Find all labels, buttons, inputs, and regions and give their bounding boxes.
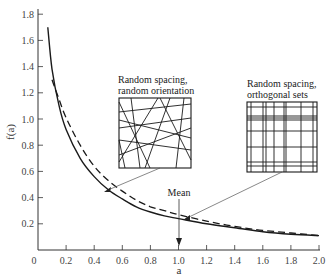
y-tick-label: 0.4: [22, 192, 35, 203]
inset-left-pointer: [108, 168, 160, 190]
y-tick-label: 0.6: [22, 166, 35, 177]
x-tick-label: 0.8: [144, 255, 157, 266]
x-tick-label: 0.2: [60, 255, 73, 266]
inset-right-pointer: [187, 172, 282, 218]
x-tick-label: 1.6: [257, 255, 270, 266]
x-tick-label: 1.4: [228, 255, 241, 266]
y-tick-label: 1.6: [22, 35, 35, 46]
x-tick-label: 1.8: [285, 255, 298, 266]
inset-right-title-2: orthogonal sets: [247, 89, 308, 100]
x-tick-label: 0.4: [88, 255, 101, 266]
mean-arrow-head-icon: [176, 238, 182, 246]
y-tick-label: 1.4: [22, 61, 35, 72]
chart: 0.20.40.60.81.01.21.41.61.8 00.20.40.60.…: [0, 0, 333, 279]
inset-random-orientation: [119, 98, 191, 168]
x-ticks: 00.20.40.60.81.01.21.41.61.82.0: [32, 245, 326, 266]
y-tick-label: 1.2: [22, 87, 35, 98]
inset-left-title-2: random orientation: [118, 85, 194, 96]
y-tick-label: 0.2: [22, 218, 35, 229]
y-axis-title: f(a): [4, 124, 17, 140]
x-axis-title: a: [177, 264, 182, 276]
x-tick-label: 0.6: [116, 255, 129, 266]
y-tick-label: 1.0: [22, 114, 35, 125]
y-tick-label: 1.8: [22, 9, 35, 20]
inset-left-title-1: Random spacing,: [118, 74, 187, 85]
x-tick-label: 1.2: [200, 255, 213, 266]
inset-right-title-1: Random spacing,: [247, 78, 316, 89]
x-tick-label: 0: [32, 255, 37, 266]
x-tick-label: 2.0: [313, 255, 326, 266]
y-tick-label: 0.8: [22, 140, 35, 151]
dashed-curve-orthogonal-sets: [52, 80, 319, 236]
mean-label: Mean: [168, 187, 191, 198]
y-ticks: 0.20.40.60.81.01.21.41.61.8: [22, 9, 44, 230]
inset-orthogonal-sets: [247, 102, 317, 172]
